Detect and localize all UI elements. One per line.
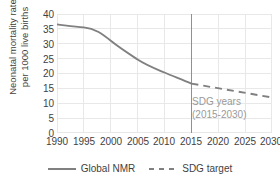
y-axis-tick: 15 — [32, 84, 54, 94]
y-axis-tick: 35 — [32, 25, 54, 35]
y-axis-tick: 40 — [32, 10, 54, 20]
y-axis-tick: 25 — [32, 55, 54, 65]
y-axis-tick: 5 — [32, 114, 54, 124]
y-axis-tick: 30 — [32, 40, 54, 50]
y-axis-tick: 10 — [32, 99, 54, 109]
legend-item-global-nmr: Global NMR — [48, 163, 135, 174]
legend-label-sdg-target: SDG target — [182, 163, 232, 174]
x-axis-tick-labels: 1990 1995 2000 2005 2010 2015 2020 2025 … — [57, 0, 272, 182]
y-axis-tick: 20 — [32, 69, 54, 79]
neonatal-mortality-chart: Neonatal mortality rate per 1000 live bi… — [0, 0, 280, 182]
x-axis-tick: 2030 — [254, 136, 280, 147]
chart-legend: Global NMR SDG target — [0, 163, 280, 174]
sdg-years-annotation: SDG years (2015-2030) — [192, 96, 246, 121]
sdg-years-annotation-line2: (2015-2030) — [192, 109, 246, 122]
legend-label-global-nmr: Global NMR — [81, 163, 135, 174]
legend-item-sdg-target: SDG target — [149, 163, 232, 174]
legend-solid-line-icon — [48, 165, 76, 173]
legend-dashed-line-icon — [149, 165, 177, 173]
sdg-years-annotation-line1: SDG years — [192, 96, 246, 109]
y-axis-tick-labels: 40 35 30 25 20 15 10 5 0 — [30, 0, 54, 182]
